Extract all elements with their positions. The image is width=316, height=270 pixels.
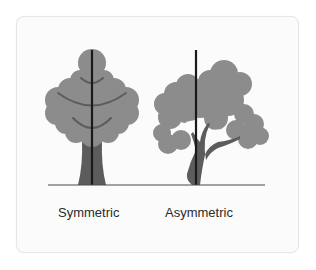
asymmetric-label: Asymmetric: [165, 205, 233, 221]
symmetric-label: Symmetric: [58, 205, 119, 221]
tree-symmetry-diagram: [0, 0, 316, 270]
symmetric-tree: [45, 49, 139, 185]
asymmetric-tree: [153, 50, 269, 185]
